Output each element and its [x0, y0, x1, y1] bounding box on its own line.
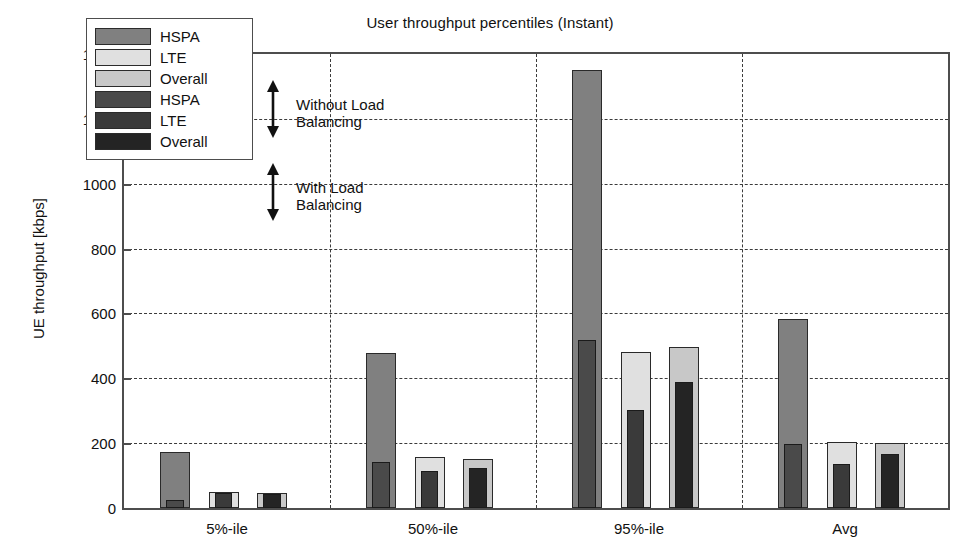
legend-swatch-icon-5	[95, 133, 151, 150]
figure-canvas: User throughput percentiles (Instant) UE…	[0, 0, 980, 560]
bar-with-lb-lte	[215, 493, 232, 508]
y-tick-label-0: 0	[108, 500, 116, 517]
x-tick-label-Avg: Avg	[832, 520, 858, 537]
legend-item-2[interactable]: Overall	[95, 68, 244, 89]
legend-item-3[interactable]: HSPA	[95, 89, 244, 110]
legend-label-2: Overall	[160, 71, 208, 86]
legend-item-1[interactable]: LTE	[95, 47, 244, 68]
bar-group-95-ile: 95%-ile	[536, 54, 742, 508]
bar-with-lb-overall	[263, 494, 280, 508]
without-lb-annotation-text: Without Load Balancing	[296, 96, 384, 131]
y-axis-label: UE throughput [kbps]	[30, 139, 47, 399]
bar-group-Avg: Avg	[742, 54, 948, 508]
legend-swatch-icon-4	[95, 112, 151, 129]
bar-with-lb-hspa	[372, 462, 389, 508]
legend-label-3: HSPA	[160, 92, 200, 107]
bar-with-lb-lte	[833, 464, 850, 508]
legend-swatch-icon-3	[95, 91, 151, 108]
x-tick-label-5-ile: 5%-ile	[206, 520, 248, 537]
bar-with-lb-hspa	[784, 444, 801, 508]
y-tick-label-1000: 1000	[83, 175, 116, 192]
chart-legend: HSPALTEOverallHSPALTEOverall	[86, 18, 253, 160]
y-tick-label-400: 400	[91, 370, 116, 387]
legend-label-1: LTE	[160, 50, 186, 65]
x-tick-label-95-ile: 95%-ile	[614, 520, 664, 537]
y-tick-label-600: 600	[91, 305, 116, 322]
legend-label-5: Overall	[160, 134, 208, 149]
bar-with-lb-overall	[675, 382, 692, 508]
with-lb-arrow-icon	[262, 163, 284, 221]
y-tick-label-800: 800	[91, 240, 116, 257]
legend-label-4: LTE	[160, 113, 186, 128]
x-tick-label-50-ile: 50%-ile	[408, 520, 458, 537]
bar-with-lb-lte	[627, 410, 644, 508]
legend-label-0: HSPA	[160, 29, 200, 44]
legend-item-0[interactable]: HSPA	[95, 26, 244, 47]
with-lb-annotation-text: With Load Balancing	[296, 179, 364, 214]
bar-with-lb-hspa	[578, 340, 595, 508]
bar-with-lb-lte	[421, 471, 438, 508]
legend-swatch-icon-1	[95, 49, 151, 66]
legend-item-4[interactable]: LTE	[95, 110, 244, 131]
bar-with-lb-overall	[469, 468, 486, 508]
legend-item-5[interactable]: Overall	[95, 131, 244, 152]
bar-with-lb-overall	[881, 454, 898, 508]
y-tick-label-200: 200	[91, 435, 116, 452]
legend-swatch-icon-0	[95, 28, 151, 45]
without-lb-arrow-icon	[262, 80, 284, 138]
bar-with-lb-hspa	[166, 500, 183, 508]
legend-swatch-icon-2	[95, 70, 151, 87]
